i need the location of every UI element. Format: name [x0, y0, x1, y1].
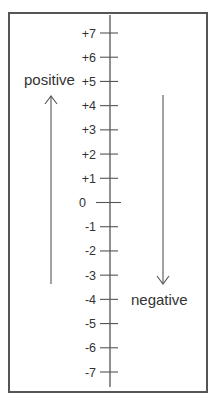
tick-label: +6 — [82, 51, 96, 65]
tick-label: +7 — [82, 27, 96, 41]
tick-label: +3 — [82, 123, 96, 137]
tick-label: -7 — [85, 366, 96, 380]
tick-label: 0 — [79, 196, 86, 210]
tick-label: -2 — [85, 244, 96, 258]
tick-label: -4 — [85, 293, 96, 307]
negative-label: negative — [131, 291, 188, 308]
tick-label: +1 — [82, 172, 96, 186]
tick-label: +5 — [82, 75, 96, 89]
tick-label: -5 — [85, 317, 96, 331]
tick-group: +7+6+5+4+3+2+10-1-2-3-4-5-6-7 — [79, 27, 121, 380]
tick-label: +4 — [82, 99, 96, 113]
tick-label: -6 — [85, 341, 96, 355]
positive-arrow — [45, 96, 57, 284]
tick-label: -3 — [85, 269, 96, 283]
positive-label: positive — [24, 71, 75, 88]
tick-label: +2 — [82, 148, 96, 162]
negative-arrow — [157, 95, 169, 284]
number-line-diagram: +7+6+5+4+3+2+10-1-2-3-4-5-6-7 positive n… — [0, 0, 219, 402]
tick-label: -1 — [85, 220, 96, 234]
